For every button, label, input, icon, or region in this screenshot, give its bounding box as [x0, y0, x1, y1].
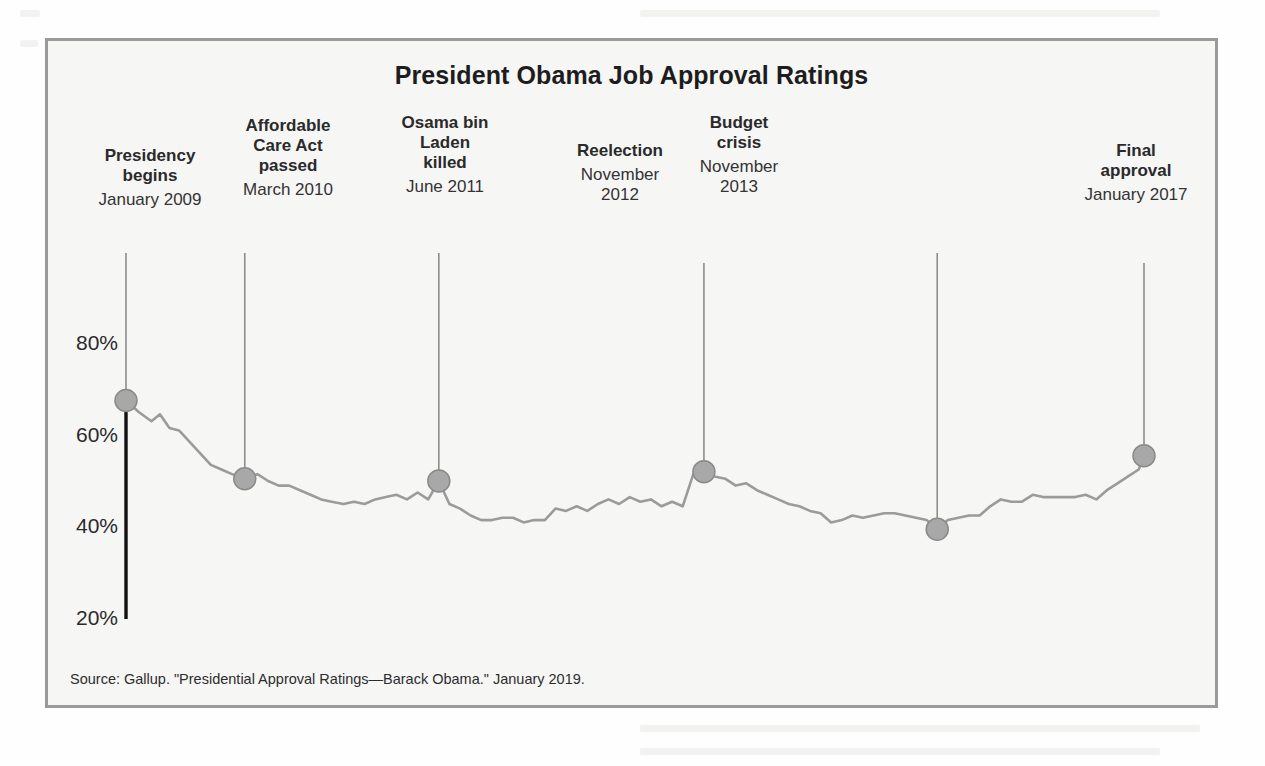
- annotated-point-markers: [115, 390, 1155, 541]
- approval-trend-line: [126, 401, 1144, 530]
- data-point-marker: [115, 390, 137, 412]
- background-text-line: [640, 748, 1160, 755]
- data-point-marker: [428, 470, 450, 492]
- data-point-marker: [926, 518, 948, 540]
- background-text-line: [20, 40, 38, 47]
- background-text-line: [20, 10, 40, 17]
- background-text-line: [640, 10, 1160, 17]
- data-point-marker: [1133, 445, 1155, 467]
- data-point-marker: [234, 468, 256, 490]
- background-text-line: [640, 725, 1200, 732]
- data-point-marker: [693, 461, 715, 483]
- annotation-leader-lines: [126, 253, 1144, 529]
- approval-line-chart: [48, 41, 1215, 705]
- figure-frame: President Obama Job Approval Ratings Pre…: [45, 38, 1218, 708]
